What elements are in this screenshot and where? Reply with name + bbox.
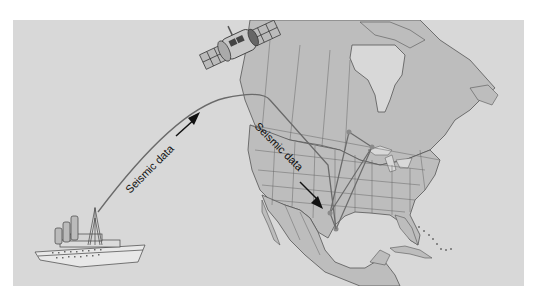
station-dot: [370, 145, 375, 150]
arrow-up-right-icon: [176, 112, 200, 136]
station-dot: [347, 130, 352, 135]
diagram-panel: Seismic data Seismic data: [13, 20, 524, 286]
ship-icon: [35, 207, 145, 267]
diagram-svg: Seismic data Seismic data: [13, 20, 524, 286]
station-dot: [328, 211, 333, 216]
